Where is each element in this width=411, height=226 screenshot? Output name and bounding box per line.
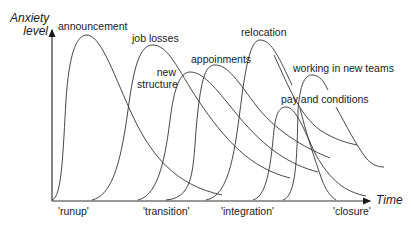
phase-label-runup: 'runup' (58, 206, 89, 217)
phase-label-closure: 'closure' (333, 206, 371, 217)
phase-label-integration: 'integration' (221, 206, 274, 217)
curve-label-announcement: announcement (58, 21, 127, 32)
y-axis-label-line2: level (10, 25, 48, 38)
curve-label-new-structure: new structure (137, 66, 176, 90)
pointer-line (300, 108, 336, 200)
curve-working-in-new-teams-tail (336, 107, 384, 167)
curve-label-relocation: relocation (241, 27, 287, 38)
x-axis-label: Time (376, 194, 403, 207)
curve-label-structure: structure (137, 78, 176, 90)
curve-label-working-in-new-teams: working in new teams (293, 63, 394, 74)
curve-label-new: new (137, 66, 176, 78)
curve-label-job-losses: job losses (132, 33, 179, 44)
curve-label-pay-and-conditions: pay and conditions (281, 94, 369, 105)
curve-label-appoinments: appoinments (191, 54, 251, 65)
phase-label-transition: 'transition' (143, 206, 190, 217)
y-axis-label: Anxiety level (10, 12, 48, 38)
diagram-canvas (0, 0, 411, 226)
